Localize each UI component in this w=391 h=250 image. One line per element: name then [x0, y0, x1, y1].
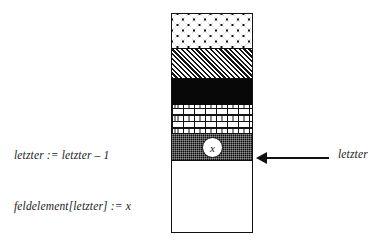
brick-offset-rows	[172, 105, 252, 134]
stack-band-empty	[172, 161, 252, 231]
pseudocode-line-2: feldelement[letzter] := x	[14, 198, 131, 215]
stack-element-x-marker: x	[202, 137, 223, 158]
pointer-arrow-line	[266, 157, 329, 159]
stack-band-circles	[172, 14, 252, 49]
stack-band-hatch	[172, 49, 252, 79]
stack-band-black	[172, 79, 252, 105]
pseudocode-line-1: letzter := letzter – 1	[14, 147, 131, 164]
pseudocode-block: letzter := letzter – 1 feldelement[letzt…	[14, 113, 131, 249]
stack-element-x-label: x	[210, 142, 215, 154]
stack-column: x	[171, 13, 253, 233]
stack-band-brick	[172, 105, 252, 134]
diagram-canvas: letzter := letzter – 1 feldelement[letzt…	[0, 0, 391, 250]
pointer-label: letzter	[338, 148, 368, 160]
